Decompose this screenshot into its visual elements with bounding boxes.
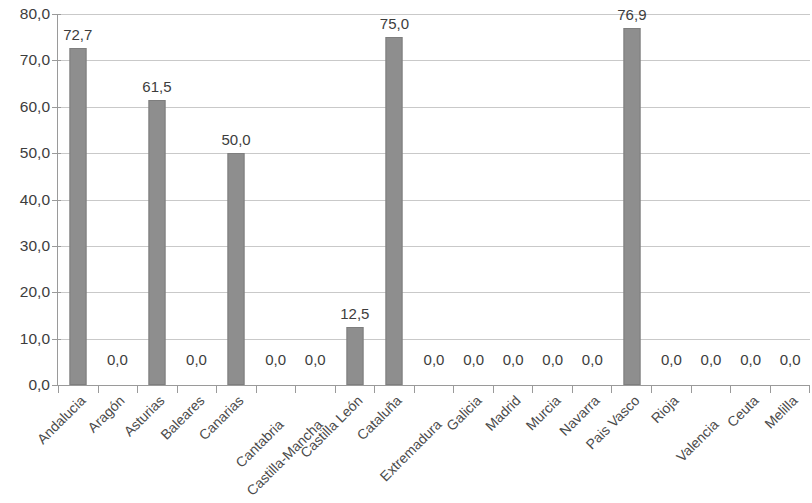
x-axis-label-slot: Ceuta [731, 385, 771, 503]
bar-column: 72,7 [58, 14, 98, 385]
bar-data-label: 0,0 [542, 352, 563, 367]
bar-column: 0,0 [493, 14, 533, 385]
bar-data-label: 76,9 [617, 7, 646, 22]
y-axis-tick-label: 10,0 [0, 330, 50, 348]
x-axis-label-slot: Murcia [533, 385, 573, 503]
bar-data-label: 0,0 [740, 352, 761, 367]
x-axis-label-slot: Andalucia [58, 385, 98, 503]
bar-data-label: 0,0 [701, 352, 722, 367]
bar-column: 0,0 [573, 14, 613, 385]
y-axis-tick-label: 60,0 [0, 98, 50, 116]
bar-data-label: 50,0 [221, 132, 250, 147]
bar-column: 0,0 [691, 14, 731, 385]
bar[interactable] [623, 28, 640, 385]
x-axis-label-slot: Asturias [137, 385, 177, 503]
bar-column: 50,0 [216, 14, 256, 385]
x-axis-category-label: Rioja [649, 393, 681, 425]
bar-series: 72,70,061,50,050,00,00,012,575,00,00,00,… [58, 14, 810, 385]
bar-column: 61,5 [137, 14, 177, 385]
y-axis-tick-label: 50,0 [0, 144, 50, 162]
bar-column: 0,0 [295, 14, 335, 385]
y-axis-tick-label: 80,0 [0, 5, 50, 23]
bar[interactable] [148, 100, 165, 385]
bar-column: 0,0 [414, 14, 454, 385]
bar-data-label: 0,0 [305, 352, 326, 367]
x-axis-label-slot: Castilla León [335, 385, 375, 503]
x-axis-label-slot: Melilla [770, 385, 810, 503]
x-axis-label-slot: Madrid [493, 385, 533, 503]
bar-data-label: 61,5 [142, 79, 171, 94]
bar-column: 12,5 [335, 14, 375, 385]
bar-column: 75,0 [375, 14, 415, 385]
bar-column: 76,9 [612, 14, 652, 385]
bar-data-label: 0,0 [503, 352, 524, 367]
bar-data-label: 72,7 [63, 27, 92, 42]
x-axis-label-slot: Galicia [454, 385, 494, 503]
x-axis-label-slot: Pais Vasco [612, 385, 652, 503]
bar-data-label: 75,0 [380, 16, 409, 31]
bar[interactable] [69, 48, 86, 385]
x-axis-labels: AndaluciaAragónAsturiasBalearesCanariasC… [58, 385, 810, 503]
x-axis-label-slot: Aragón [98, 385, 138, 503]
bar-data-label: 0,0 [424, 352, 445, 367]
bar-data-label: 0,0 [661, 352, 682, 367]
bar-column: 0,0 [731, 14, 771, 385]
bar-column: 0,0 [454, 14, 494, 385]
bar-data-label: 0,0 [463, 352, 484, 367]
bar-data-label: 0,0 [186, 352, 207, 367]
bar-data-label: 0,0 [265, 352, 286, 367]
bar-column: 0,0 [652, 14, 692, 385]
bar-data-label: 0,0 [780, 352, 801, 367]
bar-data-label: 0,0 [107, 352, 128, 367]
y-axis-tick-label: 30,0 [0, 237, 50, 255]
bar[interactable] [228, 153, 245, 385]
y-axis-tick-label: 0,0 [0, 376, 50, 394]
y-axis-tick-label: 40,0 [0, 191, 50, 209]
bar-column: 0,0 [533, 14, 573, 385]
bar-column: 0,0 [177, 14, 217, 385]
x-axis-label-slot: Extremadura [414, 385, 454, 503]
bar-chart: 0,010,020,030,040,050,060,070,080,0 72,7… [0, 0, 812, 503]
y-axis-tick-label: 70,0 [0, 51, 50, 69]
bar-data-label: 12,5 [340, 306, 369, 321]
x-axis-label-slot: Baleares [177, 385, 217, 503]
bar-column: 0,0 [770, 14, 810, 385]
bar-column: 0,0 [98, 14, 138, 385]
x-axis-label-slot: Valencia [691, 385, 731, 503]
y-axis-tick-label: 20,0 [0, 283, 50, 301]
bar[interactable] [346, 327, 363, 385]
bar-column: 0,0 [256, 14, 296, 385]
bar-data-label: 0,0 [582, 352, 603, 367]
bar[interactable] [386, 37, 403, 385]
